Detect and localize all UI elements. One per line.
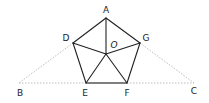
segment-GC (140, 43, 194, 83)
label-E: E (82, 88, 88, 98)
label-O: O (110, 40, 117, 50)
segment-GF (127, 43, 140, 83)
label-A: A (103, 5, 110, 15)
label-C: C (191, 86, 197, 96)
segment-BD (19, 43, 73, 83)
label-B: B (17, 88, 23, 98)
segment-FO (106, 54, 127, 83)
segment-DE (73, 43, 86, 83)
pentagon-diagram: A D G O E F B C (0, 0, 209, 103)
segment-EO (86, 54, 106, 83)
label-G: G (143, 33, 150, 43)
segment-AD (73, 18, 106, 43)
segment-DO (73, 43, 106, 54)
label-D: D (63, 33, 70, 43)
label-F: F (124, 88, 129, 98)
